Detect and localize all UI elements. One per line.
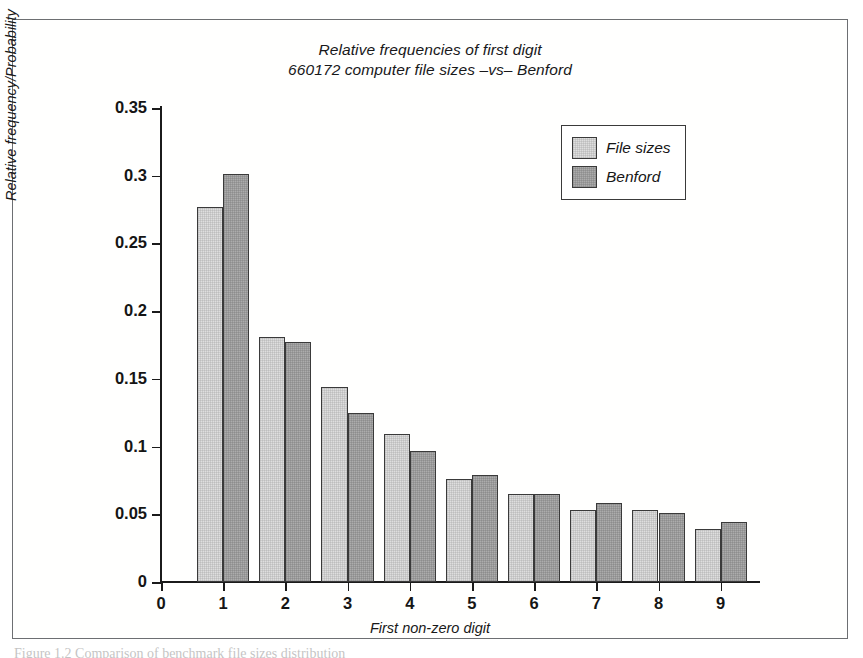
x-tick-label: 7 xyxy=(584,594,608,613)
x-tick-mark xyxy=(659,582,661,591)
legend: File sizesBenford xyxy=(561,125,686,200)
x-tick-mark xyxy=(472,582,474,591)
y-tick-label: 0.15 xyxy=(115,369,147,388)
bar-benford-5 xyxy=(472,475,498,582)
y-tick-mark xyxy=(152,108,161,110)
bar-file-sizes-6 xyxy=(508,494,534,582)
y-tick-label: 0.1 xyxy=(124,437,147,456)
x-tick-mark xyxy=(721,582,723,591)
bar-file-sizes-4 xyxy=(384,434,410,582)
y-tick-mark xyxy=(152,311,161,313)
bar-benford-3 xyxy=(348,413,374,582)
bar-file-sizes-8 xyxy=(632,510,658,582)
y-tick-label: 0.35 xyxy=(115,98,147,117)
bar-benford-7 xyxy=(596,503,622,582)
figure-caption: Figure 1.2 Comparison of benchmark file … xyxy=(14,646,834,658)
x-tick-mark xyxy=(534,582,536,591)
x-tick-label: 6 xyxy=(522,594,546,613)
x-tick-label: 8 xyxy=(647,594,671,613)
bar-benford-1 xyxy=(223,174,249,582)
y-tick-mark xyxy=(152,243,161,245)
y-tick-mark xyxy=(152,514,161,516)
y-tick-mark xyxy=(152,582,161,584)
legend-item-file-sizes: File sizes xyxy=(572,135,671,161)
bar-benford-6 xyxy=(534,494,560,582)
y-axis-title: Relative frequency/Probability xyxy=(3,9,19,201)
x-tick-label: 2 xyxy=(273,594,297,613)
bar-file-sizes-2 xyxy=(259,337,285,582)
x-tick-mark xyxy=(410,582,412,591)
bar-file-sizes-5 xyxy=(446,479,472,582)
bar-file-sizes-1 xyxy=(197,207,223,582)
bar-file-sizes-7 xyxy=(570,510,596,582)
y-tick-label: 0.05 xyxy=(115,504,147,523)
x-tick-mark xyxy=(223,582,225,591)
bar-benford-2 xyxy=(285,342,311,582)
legend-swatch xyxy=(572,137,597,159)
bar-benford-4 xyxy=(410,451,436,582)
y-tick-label: 0.2 xyxy=(124,301,147,320)
chart-title-line1: Relative frequencies of first digit xyxy=(318,41,541,58)
legend-label: File sizes xyxy=(606,139,671,157)
x-tick-label: 9 xyxy=(709,594,733,613)
y-tick-mark xyxy=(152,447,161,449)
x-tick-mark xyxy=(161,582,163,591)
bar-benford-8 xyxy=(659,513,685,582)
chart-title: Relative frequencies of first digit 6601… xyxy=(13,40,847,80)
figure-frame: Relative frequencies of first digit 6601… xyxy=(12,19,848,639)
bar-benford-9 xyxy=(721,522,747,582)
legend-label: Benford xyxy=(606,168,660,186)
chart-title-line2: 660172 computer file sizes –vs– Benford xyxy=(13,60,847,80)
x-axis-title: First non-zero digit xyxy=(13,620,847,636)
x-tick-mark xyxy=(285,582,287,591)
y-tick-label: 0.25 xyxy=(115,233,147,252)
x-tick-label: 1 xyxy=(211,594,235,613)
x-tick-mark xyxy=(596,582,598,591)
y-tick-mark xyxy=(152,176,161,178)
y-tick-label: 0.3 xyxy=(124,166,147,185)
x-tick-label: 4 xyxy=(398,594,422,613)
legend-item-benford: Benford xyxy=(572,164,671,190)
legend-swatch xyxy=(572,166,597,188)
x-tick-label: 0 xyxy=(149,594,173,613)
bar-file-sizes-3 xyxy=(321,387,347,582)
x-tick-mark xyxy=(348,582,350,591)
bar-file-sizes-9 xyxy=(695,529,721,582)
x-tick-label: 3 xyxy=(336,594,360,613)
x-tick-label: 5 xyxy=(460,594,484,613)
y-tick-label: 0 xyxy=(138,572,147,591)
y-tick-mark xyxy=(152,379,161,381)
